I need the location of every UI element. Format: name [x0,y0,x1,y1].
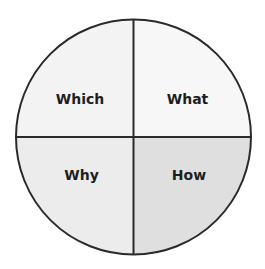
quadrant-how [134,137,252,255]
quadrant-which [16,20,134,138]
quadrant-why [16,137,134,255]
label-which: Which [56,91,104,107]
label-how: How [172,167,206,183]
label-why: Why [64,167,99,183]
label-what: What [167,91,209,107]
quadrant-what [134,20,252,138]
quadrant-circle-diagram: Which What Why How [0,0,265,269]
